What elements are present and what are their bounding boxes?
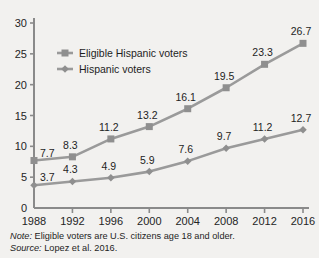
note-line: Note: Eligible voters are U.S. citizens … (10, 230, 310, 242)
x-axis: 19881992199620002004200820122016 (22, 208, 315, 227)
data-value-label: 9.7 (217, 130, 232, 142)
data-point-square-marker (107, 135, 114, 142)
data-point-diamond-marker (184, 157, 192, 165)
x-tick-label: 1988 (22, 215, 46, 227)
data-point-diamond-marker (30, 181, 38, 189)
data-point-square-marker (31, 157, 38, 164)
data-point-square-marker (223, 84, 230, 91)
legend-diamond-marker (61, 65, 69, 73)
y-tick-label: 20 (15, 79, 27, 91)
data-point-square-marker (184, 105, 191, 112)
data-value-label: 5.9 (140, 154, 155, 166)
data-point-square-marker (146, 123, 153, 130)
note-label: Note: (10, 231, 32, 241)
x-tick-label: 2016 (291, 215, 315, 227)
data-point-square-marker (300, 40, 307, 47)
data-value-label: 19.5 (214, 70, 235, 82)
data-point-square-marker (261, 61, 268, 68)
data-value-label: 11.2 (99, 121, 119, 133)
x-tick-label: 1992 (60, 215, 84, 227)
source-line: Source: Lopez et al. 2016. (10, 242, 310, 254)
data-value-label: 13.2 (137, 109, 158, 121)
data-value-label: 3.7 (40, 171, 55, 183)
x-tick-label: 2008 (214, 215, 238, 227)
y-tick-label: 5 (21, 171, 27, 183)
data-point-diamond-marker (261, 135, 269, 143)
data-value-label: 12.7 (291, 112, 312, 124)
y-tick-label: 15 (15, 110, 27, 122)
legend-item-label: Eligible Hispanic voters (79, 47, 188, 59)
data-value-label: 4.3 (63, 163, 78, 175)
x-tick-label: 2000 (137, 215, 161, 227)
x-tick-label: 1996 (99, 215, 123, 227)
data-point-square-marker (69, 153, 76, 160)
y-tick-label: 0 (21, 202, 27, 214)
y-tick-label: 25 (15, 48, 27, 60)
note-text: Eligible voters are U.S. citizens age 18… (32, 231, 235, 241)
data-value-label: 16.1 (175, 91, 196, 103)
chart-legend: Eligible Hispanic votersHispanic voters (57, 47, 188, 75)
data-value-label: 26.7 (291, 25, 312, 37)
data-value-label: 11.2 (253, 121, 273, 133)
data-value-label: 4.9 (102, 160, 117, 172)
legend-square-marker (62, 50, 69, 57)
chart-container: 051015202530 198819921996200020042008201… (0, 0, 319, 258)
data-point-diamond-marker (222, 144, 230, 152)
data-value-label: 8.3 (63, 139, 78, 151)
y-tick-label: 10 (15, 140, 27, 152)
data-point-diamond-marker (69, 178, 77, 186)
legend-item-label: Hispanic voters (79, 63, 151, 75)
source-text: Lopez et al. 2016. (42, 243, 118, 253)
data-point-diamond-marker (146, 168, 154, 176)
x-tick-label: 2004 (175, 215, 199, 227)
data-value-label: 7.7 (40, 147, 55, 159)
data-point-diamond-marker (107, 174, 115, 182)
source-label: Source: (10, 243, 42, 253)
data-value-label: 7.6 (178, 143, 193, 155)
data-point-diamond-marker (299, 126, 307, 134)
data-value-label: 23.3 (252, 46, 273, 58)
y-tick-label: 30 (15, 17, 27, 29)
line-chart-plot: 051015202530 198819921996200020042008201… (0, 0, 319, 228)
x-tick-label: 2012 (252, 215, 276, 227)
chart-footnotes: Note: Eligible voters are U.S. citizens … (10, 230, 310, 254)
